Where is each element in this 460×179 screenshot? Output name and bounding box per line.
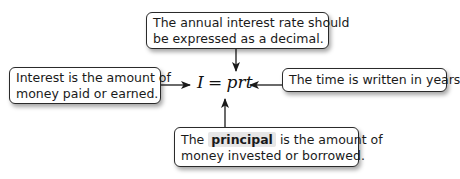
- callout-time-line-1: The time is written in years.: [289, 72, 441, 88]
- formula-equals: =: [204, 72, 226, 92]
- formula-rhs: prt: [226, 72, 252, 92]
- formula-lhs: I: [197, 72, 204, 92]
- principal-prefix: The: [181, 132, 204, 147]
- callout-time: The time is written in years.: [282, 68, 447, 92]
- callout-rate-line-1: The annual interest rate should: [153, 15, 323, 31]
- callout-principal-line-1: The principal is the amount of: [181, 132, 353, 148]
- principal-highlight-term: principal: [208, 132, 276, 147]
- callout-principal: The principal is the amount of money inv…: [174, 127, 359, 167]
- principal-suffix: is the amount of: [280, 132, 383, 147]
- callout-interest-line-2: money paid or earned.: [16, 86, 155, 102]
- interest-formula: I=prt: [197, 72, 253, 92]
- callout-interest: Interest is the amount of money paid or …: [9, 67, 161, 104]
- callout-interest-line-1: Interest is the amount of: [16, 70, 155, 86]
- callout-principal-line-2: money invested or borrowed.: [181, 148, 353, 164]
- callout-rate: The annual interest rate should be expre…: [146, 12, 329, 49]
- callout-rate-line-2: be expressed as a decimal.: [153, 31, 323, 47]
